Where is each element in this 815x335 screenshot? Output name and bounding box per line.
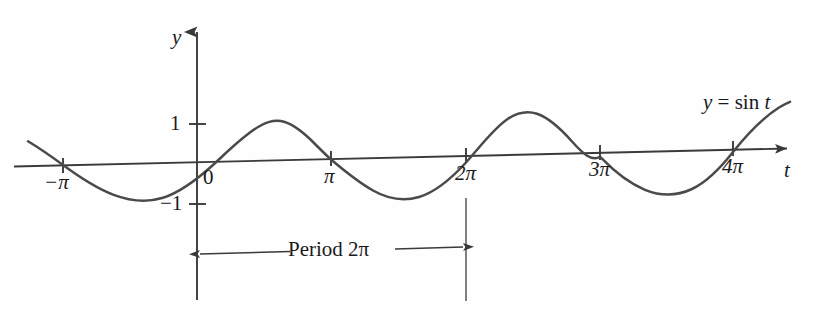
x-tick-label-2pi: 2π (455, 163, 476, 184)
sine-graph-svg (0, 0, 815, 335)
period-arrow-right (395, 247, 463, 249)
x-axis-line (14, 149, 787, 167)
period-annotation-label: Period 2π (288, 239, 369, 260)
x-tick-label-minus-pi: −π (44, 172, 69, 193)
curve-label-y: y (703, 90, 712, 114)
curve-label-t: t (764, 90, 770, 114)
period-arrow-left (200, 252, 290, 255)
x-tick-label-4pi: 4π (722, 156, 743, 177)
y-axis-label: y (172, 27, 181, 48)
y-tick-label-minus-1: −1 (160, 193, 182, 214)
figure-canvas: y t 0 −π π 2π 3π 4π 1 −1 y = sin t Perio… (0, 0, 815, 335)
curve-equation-label: y = sin t (703, 92, 770, 113)
x-tick-label-3pi: 3π (589, 159, 610, 180)
curve-label-sin: sin (735, 90, 760, 114)
origin-label: 0 (203, 167, 214, 188)
x-tick-label-pi: π (324, 166, 335, 187)
x-axis-group (14, 141, 787, 173)
curve-label-equals: = (712, 90, 734, 114)
y-tick-label-1: 1 (170, 113, 181, 134)
x-axis-label: t (784, 160, 790, 181)
